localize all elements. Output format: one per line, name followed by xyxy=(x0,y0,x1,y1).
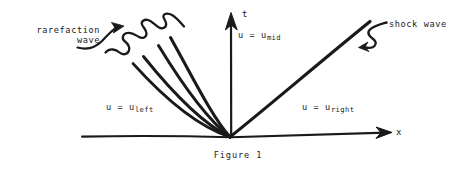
t-axis-label: t xyxy=(242,9,248,20)
x-axis-label: x xyxy=(396,127,402,138)
u-left-region-label: u = uleft xyxy=(106,102,154,115)
u-mid-subscript: mid xyxy=(267,33,281,42)
u-left-prefix: u = u xyxy=(106,102,135,112)
u-mid-region-label: u = umid xyxy=(238,30,281,43)
rarefaction-wave-line2: wave xyxy=(20,35,100,45)
u-mid-prefix: u = u xyxy=(238,30,267,40)
rarefaction-fan xyxy=(133,38,230,138)
t-axis xyxy=(225,13,237,138)
rarefaction-squiggle-outline xyxy=(106,14,185,55)
u-left-subscript: left xyxy=(135,105,154,114)
shock-wave-annotation: shock wave xyxy=(389,19,447,29)
rarefaction-wave-annotation: rarefaction wave xyxy=(20,25,100,45)
u-right-prefix: u = u xyxy=(302,102,331,112)
figure-caption: Figure 1 xyxy=(0,150,476,160)
u-right-region-label: u = uright xyxy=(302,102,355,115)
rarefaction-wave-line1: rarefaction xyxy=(36,25,100,35)
riemann-problem-figure: rarefaction wave shock wave u = umid u =… xyxy=(0,0,476,170)
u-right-subscript: right xyxy=(331,105,355,114)
